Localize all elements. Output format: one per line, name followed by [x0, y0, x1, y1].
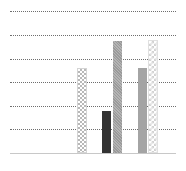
bar	[77, 68, 87, 153]
bar	[113, 41, 122, 153]
bar	[102, 111, 111, 153]
bar	[148, 40, 158, 153]
x-axis-baseline	[10, 153, 176, 154]
bar	[138, 68, 147, 153]
gridline	[10, 11, 176, 12]
bar-chart	[0, 0, 186, 171]
gridline	[10, 35, 176, 36]
